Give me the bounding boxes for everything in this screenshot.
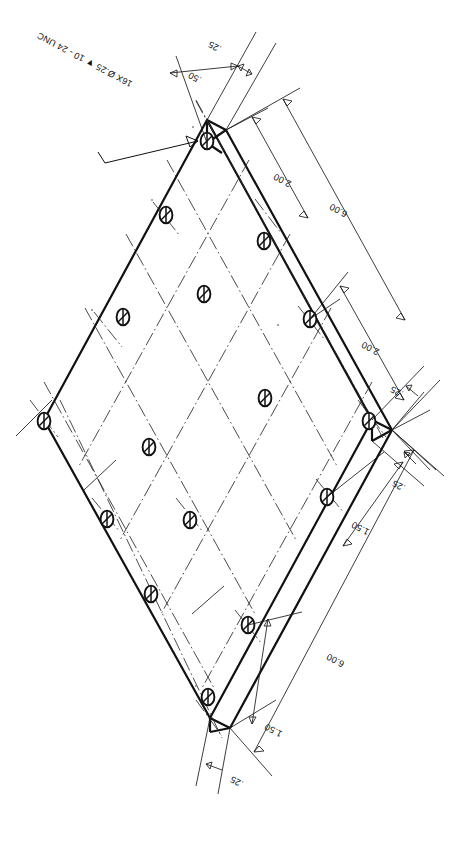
plate-top-face [44,120,372,718]
dim-lower-right-600-group: 6.00 [230,430,436,776]
dim-right-025-upper-group: .25 [372,366,440,430]
dim-right-150-group: 1.50 [327,430,430,546]
dim-lower-right-600-label: 6.00 [325,651,346,669]
dim-top-025-label: .25 [206,39,223,54]
hole[interactable] [258,233,271,250]
technical-drawing-canvas: 16X Ø.25 ▼ 10 - 24 UNC .25 .50 2.00 [0,0,462,844]
hole[interactable] [259,390,272,407]
scan-artifacts [91,126,279,687]
hole[interactable] [145,586,158,603]
hole[interactable] [202,689,215,706]
hole-group [38,133,376,706]
dim-upper-right-600-label: 6.00 [328,201,349,219]
hole-callout-text: 16X Ø.25 ▼ 10 - 24 UNC [35,30,134,89]
dim-upper-right-200-label: 2.00 [272,171,293,189]
dim-top-025-group: .25 [206,32,276,130]
hole[interactable] [363,413,376,430]
hole-callout-note: 16X Ø.25 ▼ 10 - 24 UNC [35,30,134,89]
dim-right-200-label: 2.00 [360,339,381,357]
hole[interactable] [117,309,130,326]
dim-top-050-label: .50 [186,70,203,85]
dim-top-050-group: .50 [170,56,238,143]
hole-callout-leader [98,136,198,163]
hole[interactable] [143,439,156,456]
dim-right-025-lower-label: .25 [390,478,407,493]
drawing-sheet: 16X Ø.25 ▼ 10 - 24 UNC .25 .50 2.00 [0,0,462,844]
center-line-grid [44,160,372,688]
dim-bottom-150-label: 1.50 [263,721,284,739]
hole[interactable] [38,413,51,430]
dim-right-200-group: 2.00 [310,272,424,430]
hole[interactable] [101,511,114,528]
dim-bottom-150-group: 1.50 [230,612,302,739]
hole[interactable] [160,207,173,224]
hole[interactable] [184,512,197,529]
hole[interactable] [198,286,211,303]
dim-upper-right-600-group: 6.00 [226,88,430,430]
dim-upper-right-200-group: 2.00 [226,108,340,319]
corner-edge-ticks [16,400,224,614]
dim-right-025-upper-label: .25 [388,384,405,399]
hole[interactable] [201,133,214,150]
hole-center-tick-marks [30,101,386,736]
dim-bottom-025-label: .25 [228,774,245,789]
center-axis-lines [60,100,383,738]
